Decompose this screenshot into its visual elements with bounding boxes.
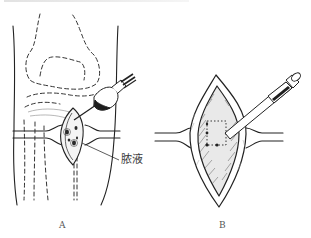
pus-annotation-label: 脓液 [121, 154, 143, 165]
medical-figure: 脓液 A B [0, 0, 311, 238]
panel-a-label: A [59, 221, 66, 230]
panel-b-label: B [219, 221, 226, 230]
panel-a-illustration [0, 0, 311, 238]
